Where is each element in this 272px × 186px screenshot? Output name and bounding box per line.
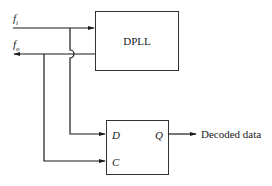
q-pin-label: Q <box>155 130 163 141</box>
fo-sub: o <box>16 45 20 53</box>
decoded-data-label: Decoded data <box>201 129 261 140</box>
dpll-block: DPLL <box>95 11 179 71</box>
fo-label: fo <box>13 39 20 53</box>
fi-sub: i <box>16 19 18 27</box>
c-pin-label: C <box>112 157 119 168</box>
flipflop-block: D C Q <box>106 120 169 175</box>
d-pin-label: D <box>112 130 120 141</box>
fi-label: fi <box>13 13 18 27</box>
dpll-label: DPLL <box>96 35 178 47</box>
